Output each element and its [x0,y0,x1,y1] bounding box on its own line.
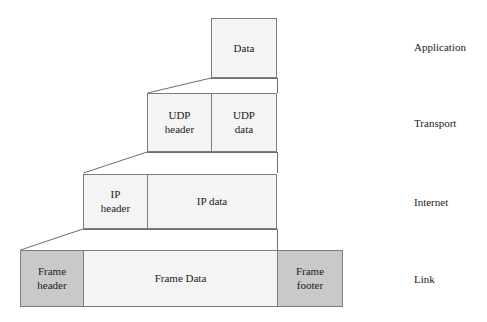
frame-data-box: Frame Data [83,250,278,307]
data-box-label: Data [234,42,255,55]
layer-label-internet: Internet [414,196,448,208]
frame-header-line2: header [37,279,66,291]
udp-data-box-label: UDPdata [233,109,255,137]
connector-internet-link [20,229,278,251]
layer-label-application: Application [414,41,466,53]
udp-data-box: UDPdata [211,93,277,152]
udp-header-box-label: UDPheader [165,109,194,137]
ip-header-line2: header [101,202,130,214]
ip-header-box: IPheader [83,174,148,229]
connector-transport-internet [83,152,278,174]
udp-data-line2: data [235,123,253,135]
ip-data-box: IP data [147,174,277,229]
frame-footer-box: Framefooter [277,250,343,307]
udp-header-line1: UDP [168,109,190,121]
layer-label-link: Link [414,273,435,285]
frame-header-box: Frameheader [20,250,84,307]
udp-header-line2: header [165,123,194,135]
layer-label-transport: Transport [414,117,456,129]
frame-footer-line1: Frame [296,265,324,277]
frame-footer-box-label: Framefooter [296,265,324,293]
ip-data-box-label: IP data [197,195,227,208]
udp-header-box: UDPheader [147,93,212,152]
udp-data-line1: UDP [233,109,255,121]
frame-footer-line2: footer [297,279,323,291]
data-box: Data [211,18,277,78]
ip-header-line1: IP [111,188,121,200]
encapsulation-diagram: Data UDPheader UDPdata IPheader IP data [0,0,487,322]
frame-data-box-label: Frame Data [155,272,207,285]
ip-header-box-label: IPheader [101,188,130,216]
frame-header-line1: Frame [38,265,66,277]
connector-application-transport [147,78,278,94]
frame-header-box-label: Frameheader [37,265,66,293]
